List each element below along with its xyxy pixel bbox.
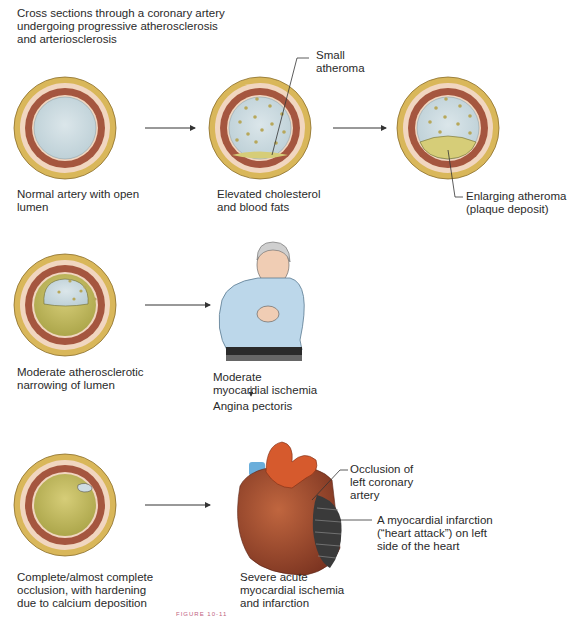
label-severe-ischemia: Severe acute myocardial ischemia and inf… [240,571,344,610]
label-angina-pectoris: Angina pectoris [213,400,292,413]
artery-moderate [14,254,116,356]
callout-occlusion-left-coronary: Occlusion of left coronary artery [350,463,413,502]
label-moderate-narrowing: Moderate atherosclerotic narrowing of lu… [17,366,144,392]
label-enlarging-atheroma: Enlarging atheroma (plaque deposit) [466,190,566,216]
callout-myocardial-infarction: A myocardial infarction (“heart attack”)… [377,514,493,553]
artery-occlusion [14,454,116,556]
artery-elevated [209,58,311,179]
label-complete-occlusion: Complete/almost complete occlusion, with… [17,571,153,610]
heart-illustration [238,442,372,575]
label-normal-artery: Normal artery with open lumen [17,188,139,214]
diagram-artwork [0,0,583,623]
artery-normal [14,77,116,179]
label-elevated-cholesterol: Elevated cholesterol and blood fats [217,188,321,214]
callout-small-atheroma: Small atheroma [316,49,365,75]
label-moderate-ischemia: Moderate myocardial ischemia [213,371,317,397]
man-angina-illustration [219,242,304,361]
figure-caption: FIGURE 10-11 [176,611,227,617]
artery-enlarging [397,77,499,197]
